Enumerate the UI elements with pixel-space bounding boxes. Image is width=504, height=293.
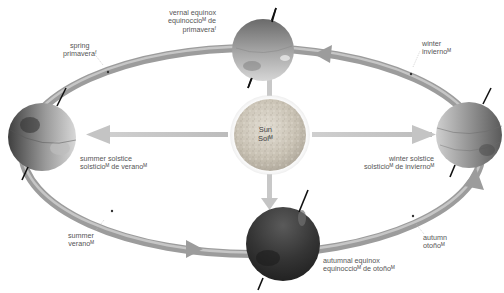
label-spring-es: primaveraᶠ <box>63 50 97 58</box>
label-spring: spring primaveraᶠ <box>63 42 97 59</box>
label-winter-solstice-es: solsticioᴹ de inviernoᴹ <box>364 163 434 171</box>
label-summer: summer veranoᴹ <box>68 232 94 249</box>
arrowhead-top <box>314 45 332 63</box>
label-sun-es: Solᴹ <box>258 135 273 144</box>
label-summer-solstice-es: solsticioᴹ de veranoᴹ <box>80 163 147 171</box>
label-summer-solstice: summer solstice solsticioᴹ de veranoᴹ <box>80 155 147 172</box>
label-autumn: autumn otoñoᴹ <box>423 234 447 251</box>
label-winter: winter inviernoᴹ <box>422 40 451 57</box>
label-sun: Sun Solᴹ <box>258 126 273 143</box>
ray-arrow-left <box>86 125 110 144</box>
earth-winter-solstice <box>436 88 502 177</box>
orbit-diagram: vernal equinox equinoccioᴹ de primaveraᶠ… <box>0 0 504 293</box>
earth-axis <box>483 88 491 104</box>
label-winter-solstice: winter solstice solsticioᴹ de inviernoᴹ <box>364 155 434 172</box>
label-autumnal-equinox: autumnal equinox equinoccioᴹ de otoñoᴹ <box>323 257 395 274</box>
ray-arrow-right <box>412 125 436 144</box>
earth-summer-solstice <box>8 88 76 180</box>
earth-axis <box>299 190 308 212</box>
earth-autumnal-equinox <box>246 190 320 290</box>
earth-vernal-equinox <box>232 8 294 88</box>
label-autumn-es: otoñoᴹ <box>423 242 447 250</box>
label-summer-es: veranoᴹ <box>68 240 94 248</box>
label-autumnal-es: equinoccioᴹ de otoñoᴹ <box>323 265 395 273</box>
label-vernal-es-2: primaveraᶠ <box>168 26 216 34</box>
label-winter-es: inviernoᴹ <box>422 48 451 56</box>
label-vernal-equinox: vernal equinox equinoccioᴹ de primaveraᶠ <box>168 9 216 34</box>
